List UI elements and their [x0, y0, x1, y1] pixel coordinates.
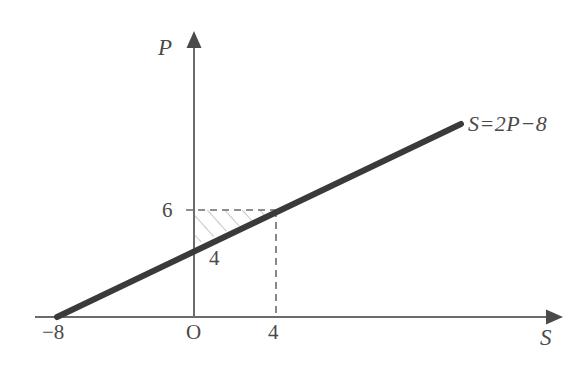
x-tick-label-4: 4: [268, 322, 279, 343]
origin-label: O: [186, 322, 201, 343]
supply-line-group: [57, 124, 461, 317]
x-axis-arrowhead: [546, 310, 563, 325]
x-tick-label-negative-8: −8: [42, 322, 64, 343]
line-equation-label: S=2P−8: [468, 113, 547, 135]
figure-canvas: P S O 4 −8 6 4 S=2P−8: [0, 0, 585, 369]
y-axis-label: P: [158, 36, 172, 59]
y-axis-arrowhead: [187, 31, 202, 48]
supply-line-s-equals-2p-minus-8: [57, 124, 461, 317]
y-tick-label-6: 6: [162, 200, 173, 221]
x-axis-label: S: [540, 326, 552, 349]
segment-label-4: 4: [209, 248, 220, 269]
axes-group: [35, 31, 563, 325]
graph-svg: [0, 0, 585, 369]
